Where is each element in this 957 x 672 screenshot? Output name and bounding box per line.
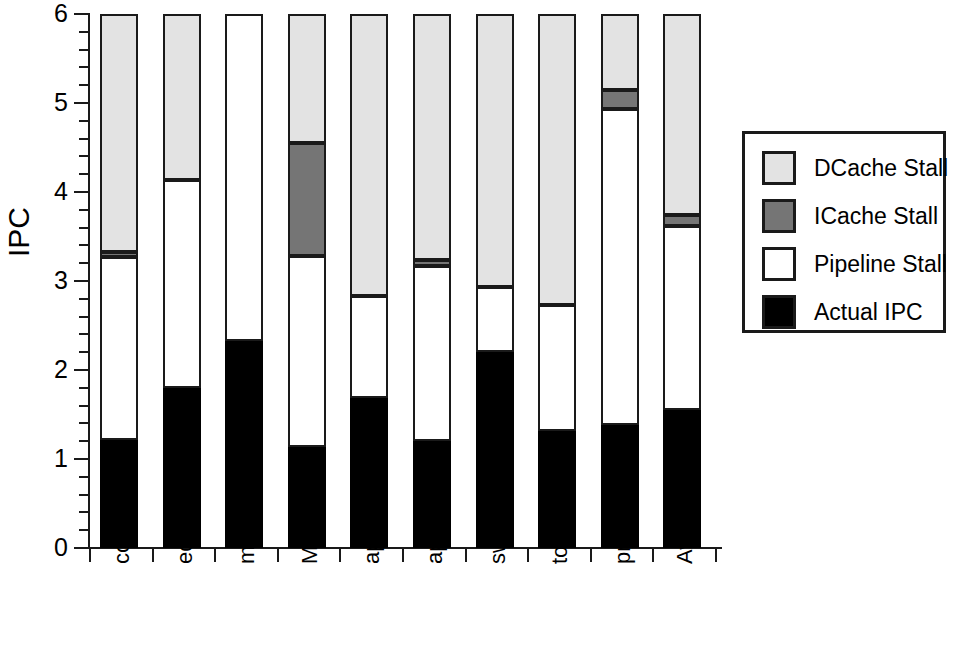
chart-figure: IPC 0123456 compresseqntottm88ksimMPsima…: [0, 0, 957, 672]
y-axis-tick-minor: [79, 387, 88, 389]
bar-segment-pipeline-stall: [476, 287, 514, 352]
legend-label: Pipeline Stall: [814, 253, 947, 276]
x-axis-tick: [214, 549, 216, 562]
x-axis-label-mpsim: MPsim: [299, 497, 321, 564]
y-axis-tick-minor: [79, 262, 88, 264]
y-axis-tick-minor: [79, 31, 88, 33]
x-axis-label-average: Average: [674, 482, 696, 564]
chart-legend: DCache StallICache StallPipeline StallAc…: [742, 131, 946, 333]
x-axis-tick: [527, 549, 529, 562]
bar-segment-dcache-stall: [538, 14, 576, 305]
legend-swatch-icache: [762, 199, 796, 233]
bar-segment-dcache-stall: [413, 14, 451, 260]
bar-segment-pipeline-stall: [163, 180, 201, 388]
legend-swatch-dcache: [762, 151, 796, 185]
y-axis-tick-label: 6: [22, 1, 68, 26]
y-axis-tick-minor: [79, 227, 88, 229]
y-axis-tick-major: [74, 280, 88, 282]
bar-segment-icache-stall: [663, 215, 701, 226]
x-axis-label-applu: applu: [361, 510, 383, 564]
x-axis-tick: [277, 549, 279, 562]
x-axis-tick: [715, 549, 717, 562]
bar-segment-pipeline-stall: [100, 257, 138, 440]
bar-segment-pipeline-stall: [663, 226, 701, 410]
bar-segment-pipeline-stall: [350, 296, 388, 398]
bar-average: [663, 14, 701, 548]
bar-m88ksim: [225, 14, 263, 548]
y-axis-tick-major: [74, 191, 88, 193]
y-axis-tick-label: 1: [22, 446, 68, 471]
x-axis-tick: [465, 549, 467, 562]
y-axis-tick-label: 4: [22, 179, 68, 204]
bar-segment-pipeline-stall: [288, 256, 326, 446]
bar-segment-icache-stall: [288, 143, 326, 256]
bar-segment-pipeline-stall: [225, 14, 263, 341]
bar-segment-pipeline-stall: [538, 305, 576, 431]
y-axis-tick-minor: [79, 244, 88, 246]
x-axis-tick: [152, 549, 154, 562]
bar-segment-pipeline-stall: [601, 109, 639, 425]
x-axis-label-eqntott: eqntott: [174, 497, 196, 564]
x-axis-tick: [652, 549, 654, 562]
x-axis-tick: [89, 549, 91, 562]
bar-segment-icache-stall: [601, 90, 639, 110]
bar-apsi: [413, 14, 451, 548]
legend-swatch-pipeline: [762, 247, 796, 281]
y-axis-tick-minor: [79, 84, 88, 86]
y-axis-tick-major: [74, 13, 88, 15]
x-axis-label-swim: swim: [487, 514, 509, 564]
y-axis-tick-minor: [79, 138, 88, 140]
bar-swim: [476, 14, 514, 548]
bar-segment-icache-stall: [100, 252, 138, 257]
y-axis-tick-minor: [79, 49, 88, 51]
x-axis-label-pmake: pmake: [612, 498, 634, 564]
y-axis-tick-minor: [79, 209, 88, 211]
y-axis-tick-minor: [79, 440, 88, 442]
x-axis-tick: [402, 549, 404, 562]
y-axis-tick-minor: [79, 173, 88, 175]
legend-item-icache-stall: ICache Stall: [762, 196, 938, 236]
legend-item-pipeline-stall: Pipeline Stall: [762, 244, 947, 284]
bar-segment-dcache-stall: [100, 14, 138, 252]
x-axis-tick: [339, 549, 341, 562]
legend-label: DCache Stall: [814, 157, 948, 180]
bar-segment-dcache-stall: [476, 14, 514, 287]
plot-area: [88, 14, 720, 548]
x-axis-label-m88ksim: m88ksim: [236, 476, 258, 564]
y-axis-tick-label: 2: [22, 357, 68, 382]
x-axis-label-compress: compress: [111, 469, 133, 564]
legend-item-actual-ipc: Actual IPC: [762, 292, 923, 332]
y-axis-tick-minor: [79, 422, 88, 424]
y-axis-tick-minor: [79, 529, 88, 531]
y-axis-tick-major: [74, 102, 88, 104]
bar-segment-dcache-stall: [288, 14, 326, 143]
x-axis-label-apsi: apsi: [424, 524, 446, 564]
bar-segment-dcache-stall: [601, 14, 639, 90]
y-axis-tick-label: 5: [22, 90, 68, 115]
y-axis-tick-minor: [79, 120, 88, 122]
y-axis-tick-minor: [79, 405, 88, 407]
legend-swatch-actual: [762, 295, 796, 329]
bar-segment-dcache-stall: [663, 14, 701, 215]
y-axis-tick-major: [74, 369, 88, 371]
bar-pmake: [601, 14, 639, 548]
y-axis-tick-minor: [79, 66, 88, 68]
y-axis-tick-minor: [79, 316, 88, 318]
bar-segment-pipeline-stall: [413, 266, 451, 441]
y-axis-tick-label: 0: [22, 535, 68, 560]
legend-label: ICache Stall: [814, 205, 938, 228]
legend-label: Actual IPC: [814, 301, 923, 324]
y-axis-tick-minor: [79, 476, 88, 478]
bar-eqntott: [163, 14, 201, 548]
y-axis-tick-minor: [79, 351, 88, 353]
bar-segment-dcache-stall: [350, 14, 388, 296]
y-axis-tick-label: 3: [22, 268, 68, 293]
y-axis-tick-minor: [79, 333, 88, 335]
bar-applu: [350, 14, 388, 548]
legend-item-dcache-stall: DCache Stall: [762, 148, 948, 188]
bar-segment-dcache-stall: [163, 14, 201, 180]
bar-mpsim: [288, 14, 326, 548]
y-axis-tick-minor: [79, 155, 88, 157]
y-axis-tick-minor: [79, 494, 88, 496]
bar-segment-icache-stall: [413, 260, 451, 266]
